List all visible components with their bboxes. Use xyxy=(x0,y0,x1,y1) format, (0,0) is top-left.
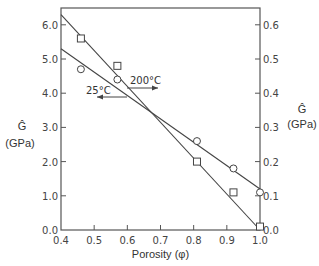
x-axis-title: Porosity (φ) xyxy=(132,248,189,260)
data-point-circle xyxy=(77,66,84,73)
data-point-circle xyxy=(114,76,121,83)
x-tick-label: 0.6 xyxy=(119,235,135,246)
x-tick-label: 0.8 xyxy=(186,235,202,246)
y-right-axis-units: (GPa) xyxy=(287,118,316,130)
y-left-tick-label: 0.0 xyxy=(42,225,58,236)
x-tick-label: 0.7 xyxy=(153,235,169,246)
y-right-tick-label: 0.5 xyxy=(263,54,279,65)
data-point-circle xyxy=(230,165,237,172)
data-point-square xyxy=(77,35,84,42)
y-left-tick-label: 1.0 xyxy=(42,191,58,202)
y-right-tick-label: 0.3 xyxy=(263,122,279,133)
data-point-circle xyxy=(193,138,200,145)
data-point-square xyxy=(230,189,237,196)
y-right-tick-label: 0.1 xyxy=(263,191,279,202)
fit-line-square xyxy=(61,15,260,230)
y-right-tick-label: 0.4 xyxy=(263,88,279,99)
y-right-axis-symbol: Ĝ xyxy=(298,103,307,115)
x-tick-label: 0.9 xyxy=(219,235,235,246)
porosity-shear-modulus-chart: 0.40.50.60.70.80.91.00.01.02.03.04.05.06… xyxy=(0,0,319,266)
x-tick-label: 1.0 xyxy=(252,235,268,246)
y-left-tick-label: 2.0 xyxy=(42,157,58,168)
annotation-200c: 200°C xyxy=(130,75,161,86)
arrow-right-icon xyxy=(152,86,158,91)
y-left-tick-label: 3.0 xyxy=(42,122,58,133)
y-left-axis-symbol: Ĝ xyxy=(18,120,27,132)
y-right-tick-label: 0.2 xyxy=(263,157,279,168)
data-point-square xyxy=(257,223,264,230)
data-point-square xyxy=(193,158,200,165)
y-left-tick-label: 4.0 xyxy=(42,88,58,99)
x-tick-label: 0.5 xyxy=(86,235,102,246)
y-right-tick-label: 0.0 xyxy=(263,225,279,236)
y-left-axis-units: (GPa) xyxy=(5,137,34,149)
y-right-tick-label: 0.6 xyxy=(263,20,279,31)
annotation-25c: 25°C xyxy=(86,85,111,96)
data-point-square xyxy=(114,62,121,69)
y-left-tick-label: 5.0 xyxy=(42,54,58,65)
x-tick-label: 0.4 xyxy=(53,235,69,246)
data-point-circle xyxy=(257,189,264,196)
y-left-tick-label: 6.0 xyxy=(42,20,58,31)
